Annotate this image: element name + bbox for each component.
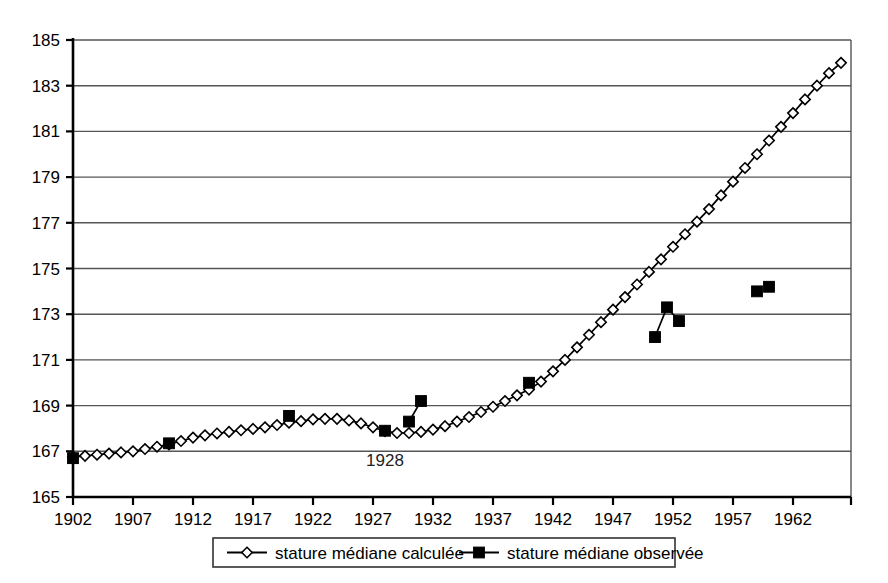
x-axis-tick-label: 1937 [474,510,512,529]
x-axis-tick-label: 1962 [774,510,812,529]
y-axis-tick-label: 173 [32,305,60,324]
x-axis-tick-label: 1917 [234,510,272,529]
data-point-filled-square [650,332,661,343]
y-axis-tick-label: 165 [32,488,60,507]
x-axis-tick-label: 1912 [174,510,212,529]
x-axis-tick-label: 1927 [354,510,392,529]
data-point-filled-square [662,302,673,313]
chart-legend: stature médiane calculéestature médiane … [213,538,704,567]
x-axis-tick-label: 1902 [54,510,92,529]
data-point-filled-square [764,281,775,292]
x-axis-tick-label: 1947 [594,510,632,529]
chart-annotations: 1928 [366,451,404,470]
data-point-filled-square [674,316,685,327]
y-axis-tick-label: 177 [32,214,60,233]
legend-label-observee: stature médiane observée [507,544,704,563]
chart-container: 165167169171173175177179181183185 190219… [0,0,888,583]
y-axis-tick-label: 167 [32,442,60,461]
y-axis-tick-label: 185 [32,31,60,50]
data-point-filled-square [416,396,427,407]
y-axis-tick-label: 171 [32,351,60,370]
y-axis-tick-label: 179 [32,168,60,187]
data-point-filled-square [404,416,415,427]
legend-label-calculee: stature médiane calculée [275,544,464,563]
stature-median-line-chart: 165167169171173175177179181183185 190219… [0,0,888,583]
annotation-label: 1928 [366,451,404,470]
y-axis-tick-label: 175 [32,260,60,279]
y-axis-tick-label: 183 [32,77,60,96]
x-axis-tick-label: 1907 [114,510,152,529]
data-point-filled-square [474,547,485,558]
data-point-filled-square [752,286,763,297]
x-axis-tick-label: 1957 [714,510,752,529]
data-point-filled-square [524,377,535,388]
x-axis-tick-label: 1942 [534,510,572,529]
x-axis-tick-label: 1952 [654,510,692,529]
data-point-filled-square [68,453,79,464]
y-axis-tick-label: 169 [32,397,60,416]
data-point-filled-square [380,425,391,436]
x-axis-tick-label: 1922 [294,510,332,529]
data-point-filled-square [284,410,295,421]
y-axis-tick-label: 181 [32,122,60,141]
data-point-filled-square [164,438,175,449]
x-axis-tick-label: 1932 [414,510,452,529]
